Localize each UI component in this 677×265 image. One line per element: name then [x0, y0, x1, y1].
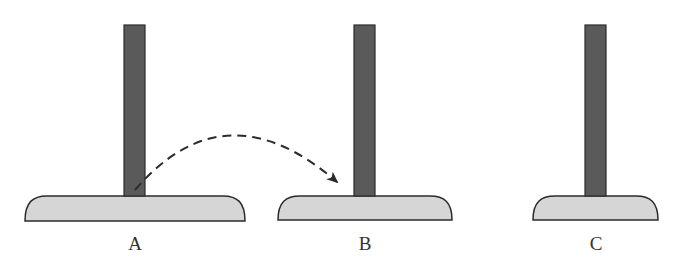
tower-b-peg: [354, 25, 375, 196]
tower-b: B: [278, 25, 452, 254]
tower-c-base: [533, 196, 658, 220]
tower-of-hanoi-diagram: A B C: [0, 0, 677, 265]
tower-c: C: [533, 25, 658, 254]
tower-b-label: B: [359, 233, 372, 254]
tower-a-peg: [124, 25, 145, 196]
tower-a-label: A: [128, 233, 142, 254]
tower-a: A: [25, 25, 245, 254]
tower-a-base: [25, 196, 245, 221]
tower-c-peg: [585, 25, 606, 196]
tower-c-label: C: [590, 233, 603, 254]
move-arrow-a-to-b: [135, 135, 337, 190]
tower-b-base: [278, 196, 452, 220]
